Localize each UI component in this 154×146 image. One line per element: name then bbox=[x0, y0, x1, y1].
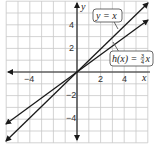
y-axis-label: y bbox=[80, 1, 86, 12]
x-tick-label: 2 bbox=[98, 74, 103, 84]
x-tick-label: −4 bbox=[24, 74, 34, 84]
x-tick-label: 4 bbox=[122, 74, 127, 84]
svg-text:x: x bbox=[145, 53, 151, 64]
y-tick-label: 2 bbox=[69, 43, 74, 53]
y-tick-label: −4 bbox=[66, 113, 76, 123]
coordinate-plane: y x −4 2 4 4 2 −2 −4 y = x h(x) = 3 4 x bbox=[0, 0, 154, 146]
callout-y-equals-x: y = x bbox=[93, 9, 122, 29]
svg-text:4: 4 bbox=[141, 59, 144, 65]
svg-text:h(x) =: h(x) = bbox=[112, 53, 137, 65]
y-tick-label: 4 bbox=[69, 20, 74, 30]
svg-text:3: 3 bbox=[141, 53, 144, 59]
y-tick-label: −2 bbox=[66, 90, 76, 100]
x-axis-label: x bbox=[141, 72, 147, 83]
callout-h-of-x: h(x) = 3 4 x bbox=[110, 42, 153, 66]
svg-text:y = x: y = x bbox=[95, 10, 117, 21]
